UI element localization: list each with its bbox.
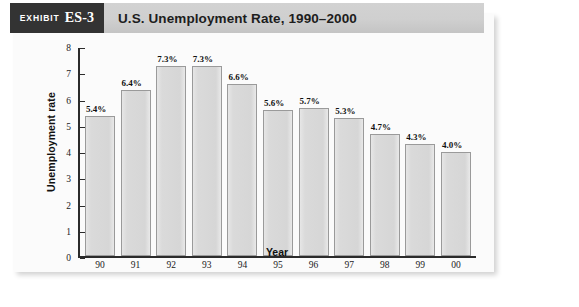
bar-slot[interactable]: 4.7% [370,48,400,256]
x-tick-label: 92 [156,260,186,270]
bar-slot[interactable]: 4.0% [441,48,471,256]
bar-slot[interactable]: 5.6% [263,48,293,256]
bar[interactable]: 7.3% [156,66,186,256]
bar-value-label: 5.3% [335,106,355,116]
bar-slot[interactable]: 4.3% [405,48,435,256]
x-axis-title: Year [78,246,476,258]
bar[interactable]: 4.0% [441,152,471,256]
exhibit-badge-word: Exhibit [20,13,60,23]
bar-chart: Unemployment rate 012345678 5.4%6.4%7.3%… [14,40,494,272]
bar[interactable]: 5.4% [85,116,115,256]
bar-value-label: 4.3% [406,132,426,142]
bar[interactable]: 5.3% [334,118,364,256]
x-tick-label: 96 [299,260,329,270]
bar[interactable]: 4.3% [405,144,435,256]
y-tick-label: 3 [66,174,71,184]
x-tick-label: 95 [263,260,293,270]
bar-slot[interactable]: 6.4% [121,48,151,256]
x-tick-label: 91 [121,260,151,270]
bar-value-label: 7.3% [193,54,213,64]
x-tick-label: 90 [85,260,115,270]
bar-slot[interactable]: 5.3% [334,48,364,256]
bar-value-label: 6.6% [228,72,248,82]
exhibit-header: Exhibit ES-3 U.S. Unemployment Rate, 199… [10,3,484,33]
bar-slot[interactable]: 5.7% [299,48,329,256]
plot-area: 012345678 5.4%6.4%7.3%7.3%6.6%5.6%5.7%5.… [78,48,476,258]
bar-series: 5.4%6.4%7.3%7.3%6.6%5.6%5.7%5.3%4.7%4.3%… [80,48,476,256]
bar[interactable]: 4.7% [370,134,400,256]
exhibit-badge-number: ES-3 [65,10,95,26]
y-axis-title: Unemployment rate [45,67,57,217]
bar-slot[interactable]: 7.3% [192,48,222,256]
y-tick-label: 8 [66,43,71,53]
y-tick-label: 2 [66,201,71,211]
bar[interactable]: 5.6% [263,110,293,256]
y-tick-label: 0 [66,253,71,263]
x-tick-label: 98 [370,260,400,270]
y-tick-mark [80,258,85,259]
y-tick-label: 6 [66,96,71,106]
x-tick-label: 97 [334,260,364,270]
bar-value-label: 7.3% [157,54,177,64]
bar[interactable]: 6.4% [121,90,151,256]
bar[interactable]: 6.6% [227,84,257,256]
x-axis-ticks: 9091929394959697989900 [80,260,476,270]
exhibit-title: U.S. Unemployment Rate, 1990–2000 [104,3,484,33]
x-tick-label: 94 [227,260,257,270]
x-tick-label: 00 [441,260,471,270]
bar-value-label: 4.0% [442,140,462,150]
bar-value-label: 4.7% [371,122,391,132]
y-tick-label: 1 [66,227,71,237]
y-tick-label: 7 [66,69,71,79]
bar-value-label: 5.7% [300,96,320,106]
bar-slot[interactable]: 7.3% [156,48,186,256]
x-tick-label: 99 [405,260,435,270]
bar-value-label: 6.4% [122,78,142,88]
bar[interactable]: 7.3% [192,66,222,256]
bar[interactable]: 5.7% [299,108,329,256]
exhibit-badge: Exhibit ES-3 [10,3,104,33]
bar-value-label: 5.4% [86,104,106,114]
y-tick-label: 4 [66,148,71,158]
y-tick: 0 [78,258,85,259]
y-tick-label: 5 [66,122,71,132]
bar-slot[interactable]: 5.4% [85,48,115,256]
x-tick-label: 93 [192,260,222,270]
bar-slot[interactable]: 6.6% [227,48,257,256]
bar-value-label: 5.6% [264,98,284,108]
